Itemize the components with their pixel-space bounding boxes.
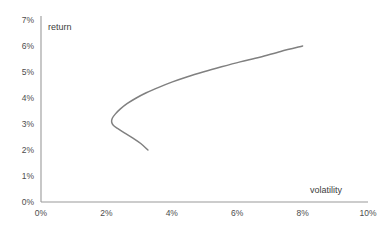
- y-tick-label: 4%: [8, 93, 34, 103]
- y-tick-label: 5%: [8, 67, 34, 77]
- y-tick-label: 6%: [8, 41, 34, 51]
- y-tick-label: 2%: [8, 145, 34, 155]
- y-tick-label: 7%: [8, 15, 34, 25]
- x-tick-label: 6%: [220, 208, 254, 218]
- y-tick-label: 0%: [8, 197, 34, 207]
- x-tick-label: 2%: [89, 208, 123, 218]
- x-axis-title: volatility: [310, 185, 342, 196]
- y-axis-title: return: [48, 22, 72, 33]
- chart-container: return volatility 0%1%2%3%4%5%6%7% 0%2%4…: [0, 0, 391, 233]
- frontier-curve: [112, 46, 303, 150]
- x-tick-label: 4%: [155, 208, 189, 218]
- efficient-frontier-plot: [0, 0, 391, 233]
- y-tick-label: 1%: [8, 171, 34, 181]
- x-tick-label: 10%: [351, 208, 385, 218]
- x-tick-label: 8%: [286, 208, 320, 218]
- y-tick-label: 3%: [8, 119, 34, 129]
- x-tick-label: 0%: [24, 208, 58, 218]
